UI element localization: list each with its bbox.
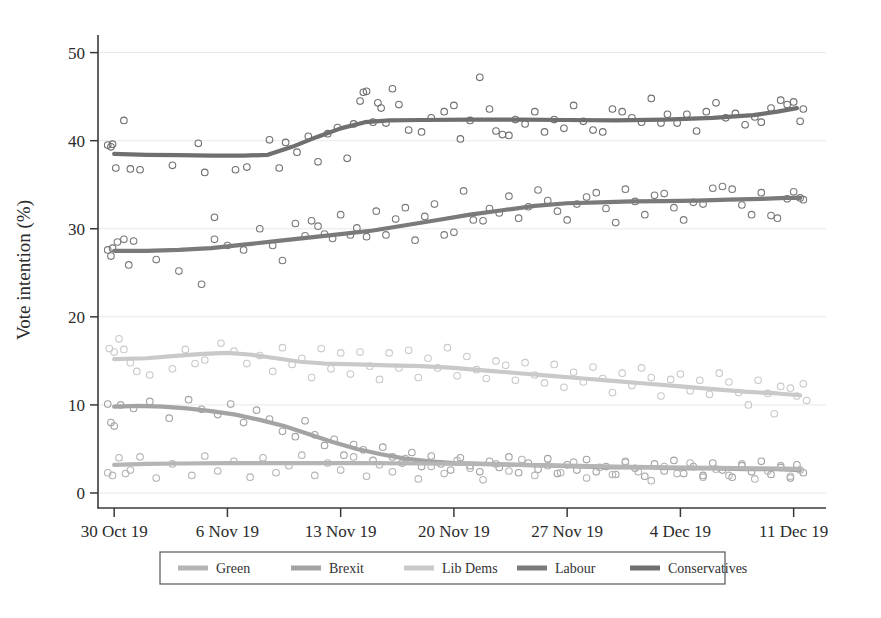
data-point <box>512 377 519 384</box>
data-point <box>739 202 746 209</box>
data-point <box>337 350 344 357</box>
data-point <box>480 476 487 483</box>
data-point <box>667 376 674 383</box>
trend-conservatives <box>114 108 797 156</box>
data-point <box>651 192 658 199</box>
data-point <box>483 375 490 382</box>
data-point <box>137 454 144 461</box>
data-point <box>609 389 616 396</box>
data-point <box>134 368 141 375</box>
data-point <box>192 360 199 367</box>
data-point <box>661 190 668 197</box>
data-point <box>396 101 403 108</box>
data-point <box>612 219 619 226</box>
data-point <box>211 236 218 243</box>
data-point <box>506 468 513 475</box>
data-point <box>146 372 153 379</box>
data-point <box>554 208 561 215</box>
data-point <box>108 253 115 260</box>
data-point <box>561 125 568 132</box>
data-point <box>282 139 289 146</box>
chart-legend[interactable]: GreenBrexitLib DemsLabourConservatives <box>160 552 747 584</box>
data-point <box>803 397 810 404</box>
data-point <box>693 128 700 135</box>
data-point <box>477 469 484 476</box>
data-point <box>593 189 600 196</box>
data-point <box>425 355 432 362</box>
data-point <box>357 98 364 105</box>
data-point <box>502 362 509 369</box>
x-tick-label: 20 Nov 19 <box>418 522 490 541</box>
y-axis-title: Vote intention (%) <box>13 200 35 340</box>
data-point <box>642 473 649 480</box>
legend-label: Green <box>216 561 250 576</box>
data-point <box>315 159 322 166</box>
data-point <box>182 346 189 353</box>
data-point <box>451 229 458 236</box>
data-point <box>519 456 526 463</box>
data-point <box>506 132 513 139</box>
data-point <box>363 233 370 240</box>
data-point <box>405 347 412 354</box>
data-point <box>292 220 299 227</box>
x-tick-label: 13 Nov 19 <box>305 522 377 541</box>
chart-figure: 01020304050 30 Oct 196 Nov 1913 Nov 1920… <box>0 0 881 618</box>
data-point <box>273 469 280 476</box>
data-point <box>541 380 548 387</box>
data-point <box>279 344 286 351</box>
x-tick-labels: 30 Oct 196 Nov 1913 Nov 1920 Nov 1927 No… <box>81 508 829 541</box>
data-point <box>244 360 251 367</box>
data-point <box>638 365 645 372</box>
trend-brexit <box>114 406 800 470</box>
data-point <box>121 236 128 243</box>
data-point <box>169 162 176 169</box>
data-point <box>169 366 176 373</box>
trend-line <box>114 406 800 470</box>
data-point <box>515 469 522 476</box>
data-point <box>176 268 183 275</box>
data-point <box>113 165 120 172</box>
data-point <box>709 460 716 467</box>
legend-label: Brexit <box>329 561 364 576</box>
data-point <box>771 410 778 417</box>
data-point <box>648 374 655 381</box>
data-point <box>790 188 797 195</box>
data-point <box>321 442 328 449</box>
data-point <box>383 232 390 239</box>
data-point <box>800 106 807 113</box>
data-point <box>201 169 208 176</box>
data-point <box>378 105 385 112</box>
data-point <box>726 379 733 386</box>
data-point <box>515 215 522 222</box>
y-tick-labels: 01020304050 <box>68 44 98 503</box>
data-point <box>758 119 765 126</box>
data-point <box>299 452 306 459</box>
data-point <box>240 247 247 254</box>
data-point <box>211 214 218 221</box>
data-point <box>386 350 393 357</box>
data-point <box>486 106 493 113</box>
data-point <box>402 204 409 211</box>
y-tick-label: 50 <box>68 44 85 63</box>
data-point <box>279 428 286 435</box>
y-tick-label: 10 <box>68 396 85 415</box>
data-point <box>201 453 208 460</box>
data-point <box>127 166 134 173</box>
data-point <box>405 127 412 134</box>
data-point <box>674 470 681 477</box>
data-point <box>379 444 386 451</box>
data-point <box>111 349 118 356</box>
data-point <box>544 455 551 462</box>
y-tick-label: 40 <box>68 132 85 151</box>
data-point <box>470 217 477 224</box>
data-point <box>347 371 354 378</box>
data-point <box>247 474 254 481</box>
data-point <box>308 374 315 381</box>
x-tick-label: 30 Oct 19 <box>81 522 148 541</box>
data-point <box>564 217 571 224</box>
data-point <box>561 384 568 391</box>
y-tick-label: 0 <box>77 484 86 503</box>
data-point <box>506 193 513 200</box>
data-point <box>703 108 710 115</box>
trend-line <box>114 353 800 395</box>
